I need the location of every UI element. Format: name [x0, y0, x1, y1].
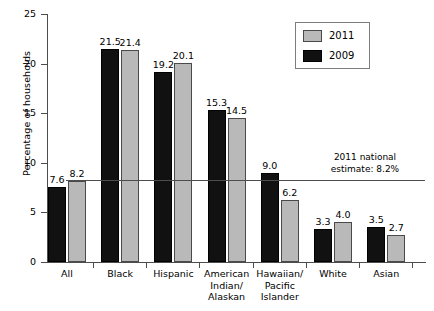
y-tick — [41, 163, 48, 164]
bar-2009-black — [101, 49, 119, 262]
bar-value-label: 2.7 — [382, 223, 410, 233]
category-label-white: White — [303, 268, 363, 280]
x-axis-line — [47, 262, 426, 263]
y-tick-label: 5 — [10, 207, 36, 217]
category-label-american: AmericanIndian/Alaskan — [197, 268, 257, 303]
bar-value-label: 4.0 — [329, 210, 357, 220]
y-tick — [41, 212, 48, 213]
category-label-line: Black — [90, 268, 150, 280]
bar-2011-white — [334, 222, 352, 262]
category-label-line: White — [303, 268, 363, 280]
bar-2009-hispanic — [154, 72, 172, 262]
bar-value-label: 19.2 — [149, 60, 177, 70]
bar-2009-hawaiian-pacific-islander — [261, 173, 279, 262]
category-label-line: American — [197, 268, 257, 280]
legend-swatch-2011-icon — [303, 30, 322, 42]
national-estimate-annotation: 2011 national estimate: 8.2% — [300, 152, 430, 175]
category-label-line: Hispanic — [143, 268, 203, 280]
bar-2011-hispanic — [174, 63, 192, 262]
bar-2011-american-indian-alaskan — [228, 118, 246, 262]
category-label-hispanic: Hispanic — [143, 268, 203, 280]
y-tick — [41, 64, 48, 65]
category-label-line: Islander — [250, 291, 310, 303]
category-label-line: All — [37, 268, 97, 280]
y-tick — [41, 113, 48, 114]
category-label-line: Indian/ — [197, 280, 257, 292]
bar-value-label: 20.1 — [169, 51, 197, 61]
y-tick-label: 10 — [10, 158, 36, 168]
category-label-black: Black — [90, 268, 150, 280]
bar-value-label: 14.5 — [223, 106, 251, 116]
annotation-line-2: estimate: 8.2% — [331, 164, 399, 174]
bar-value-label: 8.2 — [63, 169, 91, 179]
bar-value-label: 6.2 — [276, 188, 304, 198]
category-label-asian: Asian — [356, 268, 416, 280]
bar-2011-hawaiian-pacific-islander — [281, 200, 299, 262]
legend-swatch-2009-icon — [303, 50, 322, 62]
national-estimate-reference-line — [66, 180, 425, 181]
y-tick-label: 25 — [10, 9, 36, 19]
bar-2009-white — [314, 229, 332, 262]
bar-2009-all — [48, 187, 66, 262]
bar-2009-american-indian-alaskan — [208, 110, 226, 262]
y-tick-label: 15 — [10, 108, 36, 118]
y-tick-label: 0 — [10, 257, 36, 267]
category-label-line: Asian — [356, 268, 416, 280]
bar-value-label: 21.4 — [116, 38, 144, 48]
legend-label-2009: 2009 — [329, 49, 354, 62]
legend-label-2011: 2011 — [329, 29, 354, 42]
category-label-line: Pacific — [250, 280, 310, 292]
category-label-all: All — [37, 268, 97, 280]
bar-chart: Percentage of households 0510152025 7.68… — [0, 0, 434, 311]
y-tick — [41, 14, 48, 15]
legend: 2011 2009 — [295, 22, 370, 69]
bar-2011-all — [68, 181, 86, 262]
category-label-line: Hawaiian/ — [250, 268, 310, 280]
category-label-hawaiian: Hawaiian/PacificIslander — [250, 268, 310, 303]
y-tick — [41, 262, 48, 263]
bar-2011-asian — [387, 235, 405, 262]
bar-value-label: 9.0 — [256, 161, 284, 171]
bar-2011-black — [121, 50, 139, 262]
annotation-line-1: 2011 national — [334, 152, 396, 162]
y-tick-label: 20 — [10, 59, 36, 69]
category-label-line: Alaskan — [197, 291, 257, 303]
